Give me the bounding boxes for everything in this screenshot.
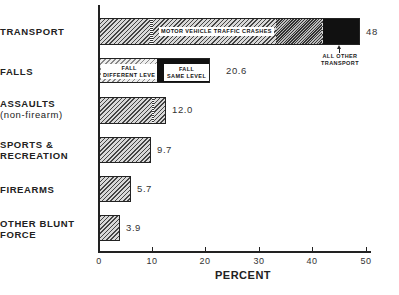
value-label-firearms: 5.7 bbox=[137, 183, 152, 194]
label-text: TRANSPORT bbox=[0, 26, 92, 37]
label-fall-same-level: FALL SAME LEVEL bbox=[164, 64, 209, 81]
bar-transport: MOTOR VEHICLE TRAFFIC CRASHES bbox=[99, 18, 360, 45]
x-axis-line bbox=[98, 251, 371, 253]
label-fall-different-level: FALL DIFFERENT LEVE bbox=[101, 64, 157, 79]
inbar-text: FALL bbox=[179, 66, 194, 72]
x-tick bbox=[312, 247, 313, 252]
x-tick-label: 0 bbox=[87, 256, 111, 266]
label-text-2: RECREATION bbox=[0, 150, 92, 161]
x-tick bbox=[259, 247, 260, 252]
segment-marker bbox=[150, 19, 153, 44]
category-label-firearms: FIREARMS bbox=[0, 184, 92, 195]
x-tick-label: 20 bbox=[193, 256, 217, 266]
x-tick bbox=[366, 247, 367, 252]
category-label-other-blunt-force: OTHER BLUNT FORCE bbox=[0, 218, 92, 240]
x-tick-label: 40 bbox=[300, 256, 324, 266]
annotation-text-2: TRANSPORT bbox=[321, 60, 359, 66]
x-tick bbox=[152, 247, 153, 252]
x-axis-title: PERCENT bbox=[215, 269, 271, 281]
category-label-falls: FALLS bbox=[0, 66, 92, 77]
label-text: OTHER BLUNT bbox=[0, 218, 92, 229]
category-label-assaults: ASSAULTS (non-firearm) bbox=[0, 98, 92, 120]
annotation-text: ALL OTHER bbox=[323, 53, 358, 59]
segment-marker bbox=[152, 98, 154, 123]
bar-assaults bbox=[99, 97, 166, 124]
bar-firearms bbox=[99, 176, 131, 202]
annotation-all-other-transport: ALL OTHER TRANSPORT bbox=[318, 53, 362, 67]
label-text-2: FORCE bbox=[0, 229, 92, 240]
label-text: SPORTS & bbox=[0, 139, 92, 150]
label-motor-vehicle-traffic-crashes: MOTOR VEHICLE TRAFFIC CRASHES bbox=[159, 27, 274, 36]
label-text: FALLS bbox=[0, 66, 92, 77]
value-label-sports-recreation: 9.7 bbox=[157, 144, 172, 155]
inbar-text: FALL bbox=[122, 65, 137, 71]
value-label-falls: 20.6 bbox=[226, 65, 247, 76]
value-label-transport: 48 bbox=[366, 26, 378, 37]
bar-falls: FALL DIFFERENT LEVE FALL SAME LEVEL bbox=[99, 58, 210, 83]
bar-other-blunt-force bbox=[99, 215, 120, 241]
label-text: ASSAULTS bbox=[0, 98, 92, 109]
value-label-other-blunt-force: 3.9 bbox=[126, 222, 141, 233]
segment-all-other-transport bbox=[323, 19, 359, 44]
category-label-sports: SPORTS & RECREATION bbox=[0, 139, 92, 161]
label-text: FIREARMS bbox=[0, 184, 92, 195]
inbar-text-2: DIFFERENT LEVE bbox=[103, 72, 155, 78]
category-label-transport: TRANSPORT bbox=[0, 26, 92, 37]
x-tick-label: 50 bbox=[354, 256, 378, 266]
inbar-text-2: SAME LEVEL bbox=[167, 73, 206, 79]
x-tick-label: 30 bbox=[247, 256, 271, 266]
value-label-assaults: 12.0 bbox=[172, 104, 193, 115]
x-tick bbox=[205, 247, 206, 252]
x-tick-label: 10 bbox=[140, 256, 164, 266]
segment-dense-hatch bbox=[276, 19, 322, 44]
label-subtext: (non-firearm) bbox=[0, 109, 92, 120]
bar-sports-recreation bbox=[99, 137, 151, 163]
